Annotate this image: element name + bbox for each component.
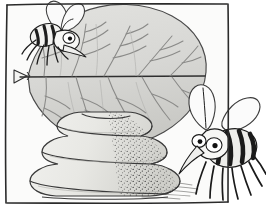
- bee-bottom-right-pupil-left: [198, 139, 203, 144]
- bee-top-left-pupil: [68, 37, 72, 41]
- bee-bottom-right-pupil-right: [212, 143, 217, 148]
- illustration-canvas: Cartoon bees, leaf and beehive Hand-draw…: [0, 0, 266, 214]
- bee-scene-drawing: [0, 0, 266, 214]
